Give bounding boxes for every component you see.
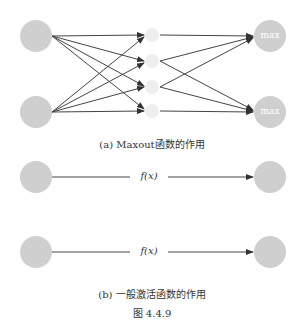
hidden-node-2 [145,54,159,68]
caption-b: (b) 一般激活函数的作用 [0,286,304,301]
b-input-node-1 [20,161,52,193]
input-to-hidden-edges [52,35,144,112]
hidden-node-3 [145,80,159,94]
input-node-1 [20,20,52,52]
input-node-2 [20,96,52,128]
function-label-1: f(x) [129,170,169,181]
maxout-diagram [0,0,304,334]
hidden-node-4 [145,104,159,118]
function-label-2: f(x) [129,245,169,256]
b-input-node-2 [20,236,52,268]
caption-a: (a) Maxout函数的作用 [0,136,304,151]
b-output-node-2 [254,236,286,268]
figure-number: 图 4.4.9 [0,305,304,320]
b-output-node-1 [254,161,286,193]
output-label-1: max [255,30,285,40]
output-label-2: max [255,106,285,116]
hidden-node-1 [145,28,159,42]
hidden-to-output-edges [160,35,253,112]
